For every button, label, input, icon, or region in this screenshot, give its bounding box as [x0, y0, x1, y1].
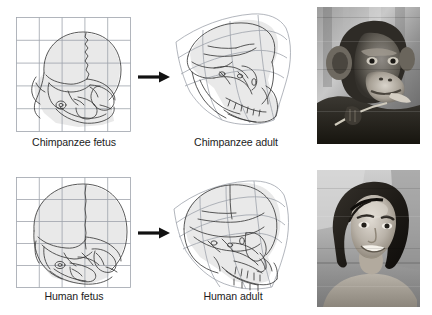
chimpanzee-adult-caption: Chimpanzee adult — [173, 136, 298, 148]
chimpanzee-fetus-svg — [16, 17, 132, 133]
chimpanzee-adult-skull-diagram — [168, 10, 304, 135]
comparative-skull-figure: Chimpanzee fetus — [0, 0, 432, 315]
arrow-right-icon — [138, 224, 170, 242]
human-fetus-caption: Human fetus — [21, 290, 128, 302]
chimpanzee-fetus-caption: Chimpanzee fetus — [21, 136, 128, 148]
chimpanzee-fetus-skull-diagram — [16, 17, 132, 133]
chimpanzee-photograph-graphic — [317, 7, 420, 144]
chimpanzee-adult-svg — [168, 10, 304, 135]
chimpanzee-transformation-arrow — [138, 68, 170, 86]
human-transformation-arrow — [138, 224, 170, 242]
human-adult-svg — [168, 175, 298, 293]
chimpanzee-photo — [317, 7, 420, 144]
human-fetus-skull-diagram — [16, 177, 132, 289]
human-photo — [317, 170, 420, 307]
arrow-right-icon — [138, 68, 170, 86]
human-fetus-svg — [16, 177, 132, 289]
human-adult-caption: Human adult — [173, 290, 293, 302]
human-adult-skull-diagram — [168, 175, 298, 293]
human-photograph-graphic — [317, 170, 420, 307]
